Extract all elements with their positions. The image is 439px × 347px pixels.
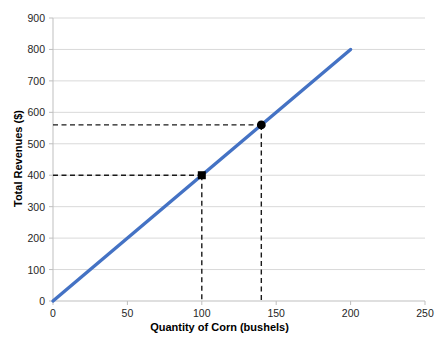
y-tick-marks — [49, 18, 53, 301]
x-tick-label: 150 — [256, 308, 296, 319]
y-axis-title: Total Revenues ($) — [13, 89, 24, 229]
y-tick-label: 100 — [5, 265, 45, 276]
chart-canvas — [0, 0, 439, 347]
y-tick-label: 800 — [5, 44, 45, 55]
data-point-marker — [198, 171, 206, 179]
y-tick-label: 200 — [5, 233, 45, 244]
y-tick-label: 0 — [5, 296, 45, 307]
data-point-marker — [257, 121, 266, 130]
x-tick-label: 100 — [182, 308, 222, 319]
x-tick-label: 200 — [331, 308, 371, 319]
y-tick-label: 700 — [5, 76, 45, 87]
x-axis-title: Quantity of Corn (bushels) — [0, 322, 439, 333]
plot-background — [53, 18, 425, 301]
x-tick-marks — [53, 301, 425, 305]
x-tick-label: 250 — [405, 308, 439, 319]
revenue-line-chart: 0100200300400500600700800900 05010015020… — [0, 0, 439, 347]
x-tick-label: 50 — [107, 308, 147, 319]
x-tick-label: 0 — [33, 308, 73, 319]
y-tick-label: 900 — [5, 13, 45, 24]
